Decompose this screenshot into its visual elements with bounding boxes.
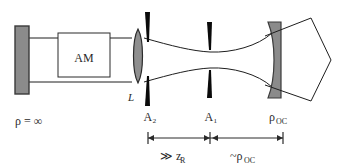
dimension-a1-to-oc-label: ~ρ (230, 149, 242, 163)
diagram-canvas: AM L A₂ A₁ ρ = ∞ ρ O (0, 0, 341, 168)
aperture-a1: A₁ (205, 22, 218, 124)
intracavity-lens-label: L (127, 91, 134, 103)
dimension-a1-to-oc-sublabel: OC (244, 156, 255, 165)
intracavity-lens: L (127, 29, 143, 103)
high-reflector-mirror (15, 26, 29, 94)
output-coupler-sub-label: OC (276, 117, 287, 126)
intracavity-lens-body (134, 29, 143, 83)
optical-cavity-diagram: AM L A₂ A₁ ρ = ∞ ρ O (0, 0, 341, 168)
output-coupler-rho-label: ρ (269, 110, 275, 124)
aperture-a1-upper-blade (207, 22, 212, 50)
active-medium-box: AM (58, 33, 110, 77)
end-mirror-curvature-label: ρ = ∞ (15, 114, 42, 128)
dimension-lens-to-a1-sublabel: R (180, 156, 186, 165)
aperture-a1-lower-blade (207, 70, 212, 98)
dimension-a1-to-oc-right-arrow (277, 135, 283, 141)
dimension-a1-to-oc: ~ρ OC (210, 132, 283, 165)
output-coupler-label-group: ρ OC (269, 110, 287, 126)
dimension-a1-to-oc-left-arrow (212, 135, 218, 141)
aperture-a2-label: A₂ (144, 110, 157, 124)
aperture-a1-label: A₁ (205, 110, 218, 124)
high-reflector-mirror-body (15, 26, 29, 94)
dimension-lens-to-a1-label: ≫ z (160, 149, 181, 163)
active-medium-label: AM (74, 51, 94, 65)
dimension-lens-to-a1: ≫ z R (148, 132, 210, 165)
dimension-lens-to-a1-right-arrow (204, 135, 210, 141)
dimension-lens-to-a1-left-arrow (148, 135, 154, 141)
aperture-a2: A₂ (144, 12, 157, 124)
aperture-a2-upper-blade (145, 12, 150, 42)
